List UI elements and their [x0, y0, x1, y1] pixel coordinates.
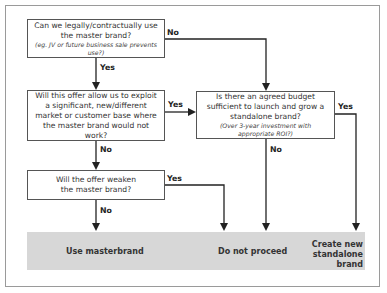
edge-label-q4-no: No: [100, 206, 112, 215]
outcome-do-not-proceed: Do not proceed: [218, 247, 287, 257]
edge-label-q2-no: No: [100, 145, 112, 154]
outcome-use-masterbrand: Use masterbrand: [66, 247, 144, 257]
decision-box-weaken-brand: Will the offer weaken the master brand?: [27, 170, 165, 200]
edge-label-q3-no: No: [270, 145, 282, 154]
decision-question: Will the offer weaken the master brand?: [32, 175, 160, 195]
decision-box-new-market: Will this offer allow us to exploit a si…: [27, 90, 165, 141]
decision-note: (Over 3-year investment with appropriate…: [201, 122, 330, 138]
outcome-create-standalone-brand: Create new standalone brand: [298, 240, 363, 270]
decision-question: Is there an agreed budget sufficient to …: [201, 92, 330, 122]
edge-label-q1-no: No: [167, 28, 179, 37]
edge-label-q4-yes: Yes: [167, 174, 182, 183]
outcome-line: Create new: [298, 240, 363, 250]
edge-label-q3-yes: Yes: [338, 102, 353, 111]
decision-note: (eg. JV or future business sale prevents…: [32, 41, 160, 57]
decision-box-budget: Is there an agreed budget sufficient to …: [196, 91, 335, 139]
edge-label-q2-yes: Yes: [168, 100, 183, 109]
decision-box-legal-use: Can we legally/contractually use the mas…: [27, 19, 165, 58]
outcome-line: standalone brand: [298, 250, 363, 270]
decision-question: Will this offer allow us to exploit a si…: [32, 91, 160, 141]
decision-question: Can we legally/contractually use the mas…: [32, 21, 160, 41]
edge-label-q1-yes: Yes: [100, 63, 115, 72]
